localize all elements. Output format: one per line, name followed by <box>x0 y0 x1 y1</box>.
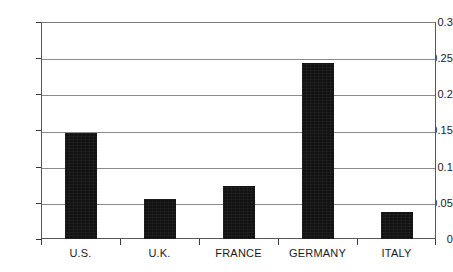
bar-uk <box>144 199 176 239</box>
bar-france <box>223 186 255 239</box>
x-tick-label-uk: U.K. <box>120 248 199 259</box>
bar-italy <box>381 212 413 240</box>
x-axis-tick <box>357 239 358 245</box>
bar-germany <box>302 63 334 239</box>
x-axis-tick <box>41 239 42 245</box>
x-axis-tick <box>199 239 200 245</box>
x-tick-label-france: FRANCE <box>199 248 278 259</box>
bars-layer <box>41 22 436 239</box>
bar-chart: 0.3 0.25 0.2 0.15 0.1 0.05 0 <box>0 0 453 272</box>
bar-us <box>65 133 97 239</box>
x-tick-label-us: U.S. <box>41 248 120 259</box>
x-tick-label-germany: GERMANY <box>278 248 357 259</box>
x-tick-label-italy: ITALY <box>357 248 436 259</box>
x-axis-tick <box>278 239 279 245</box>
x-axis-tick <box>435 239 436 245</box>
x-axis-tick <box>120 239 121 245</box>
